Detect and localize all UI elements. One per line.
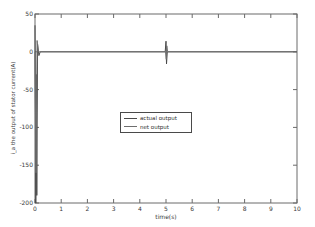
y-tick-label: -150 [19, 161, 33, 168]
x-axis-label: time(s) [35, 213, 297, 220]
x-tick-label: 5 [164, 205, 168, 212]
x-tick-label: 0 [33, 205, 37, 212]
y-tick-label: -50 [23, 86, 33, 93]
x-tick-label: 9 [269, 205, 273, 212]
x-tick-label: 8 [243, 205, 247, 212]
y-axis-label: i_a the output of stator current(A) [10, 13, 20, 203]
legend-entry-actual-output: actual output [124, 115, 188, 122]
y-tick-label: -200 [19, 199, 33, 206]
legend-line-sample [124, 118, 137, 119]
x-tick-label: 1 [59, 205, 63, 212]
x-tick-label: 10 [293, 205, 301, 212]
legend-label: actual output [140, 115, 177, 122]
x-tick-label: 7 [216, 205, 220, 212]
y-tick-label: 50 [25, 10, 33, 17]
legend-box: actual output net output [120, 112, 192, 133]
x-tick-label: 3 [112, 205, 116, 212]
legend-line-sample [124, 126, 137, 127]
x-tick-label: 2 [85, 205, 89, 212]
legend-entry-net-output: net output [124, 124, 188, 131]
x-tick-label: 6 [190, 205, 194, 212]
x-tick-label: 4 [138, 205, 142, 212]
figure-window: 012345678910500-50-100-150-200 i_a the o… [0, 0, 315, 227]
y-tick-label: -100 [19, 123, 33, 130]
legend-label: net output [140, 124, 169, 131]
y-tick-label: 0 [29, 48, 33, 55]
